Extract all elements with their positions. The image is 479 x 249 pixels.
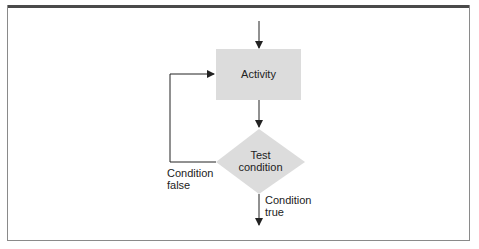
test-label-line2: condition bbox=[216, 161, 305, 173]
condition-true-label-line2: true bbox=[265, 206, 284, 218]
condition-true-label-line1: Condition bbox=[265, 194, 311, 206]
condition-false-label-line2: false bbox=[167, 179, 190, 191]
test-label-line1: Test bbox=[216, 149, 305, 161]
condition-false-label-line1: Condition bbox=[167, 167, 213, 179]
activity-label: Activity bbox=[216, 68, 301, 80]
condition-false-loop bbox=[170, 74, 216, 162]
flowchart bbox=[0, 0, 479, 249]
